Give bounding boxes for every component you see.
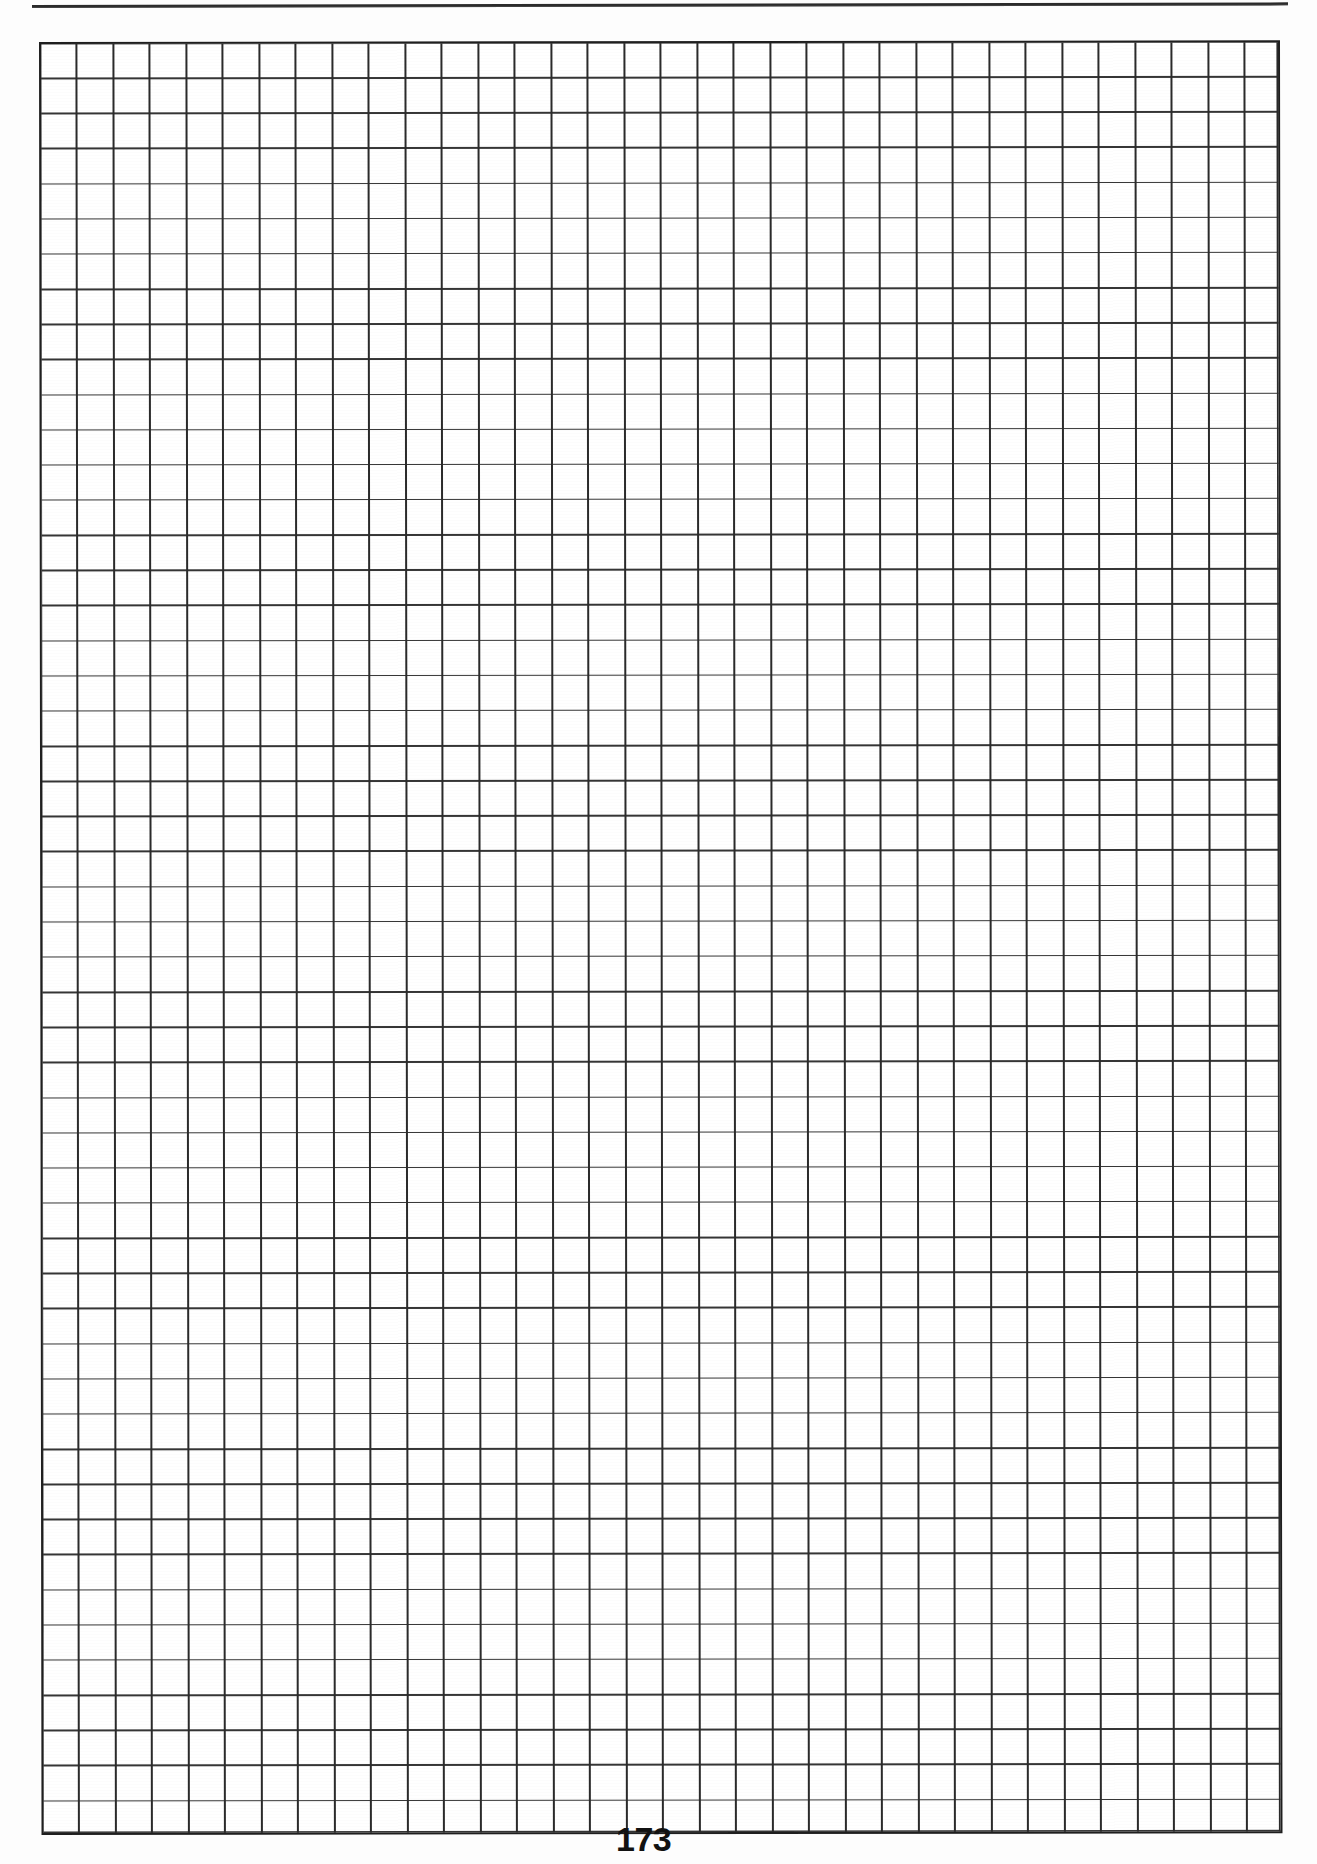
graph-paper-grid: [39, 40, 1283, 1835]
scanned-page: 173: [0, 0, 1317, 1864]
header-horizontal-rule: [32, 2, 1288, 8]
page-number: 173: [616, 1822, 671, 1856]
scan-noise-overlay: [41, 42, 1280, 1833]
